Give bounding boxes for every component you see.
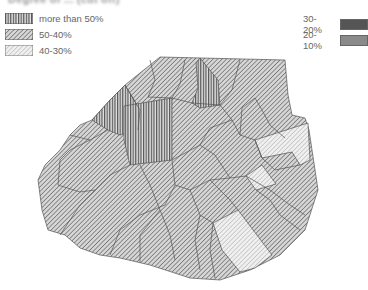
district-nw-vertical [92, 85, 140, 135]
cut-off-title: Degree of ... (cut off) [8, 0, 120, 5]
district-se-light [213, 210, 272, 272]
legend-item-40-30: 40-30% [5, 45, 72, 56]
district-e-light-1 [255, 123, 310, 165]
dark-gray-swatch [340, 19, 368, 30]
legend-item-50-40: 50-40% [5, 29, 72, 40]
legend-item-more-than-50: more than 50% [5, 13, 103, 24]
mid-gray-swatch [340, 35, 368, 46]
vertical-stripe-swatch [5, 13, 33, 24]
district-e-light-2 [246, 165, 276, 190]
legend-label: 40-30% [39, 45, 72, 56]
district-n-vertical [192, 58, 220, 108]
legend-label: 20-10% [303, 29, 335, 51]
light-diagonal-swatch [5, 45, 33, 56]
legend-item-20-10: 20-10% [303, 29, 368, 51]
legend-label: more than 50% [39, 13, 103, 24]
dense-diagonal-swatch [5, 29, 33, 40]
city-outline [38, 57, 318, 280]
legend-label: 50-40% [39, 29, 72, 40]
district-center-vertical [124, 98, 172, 165]
